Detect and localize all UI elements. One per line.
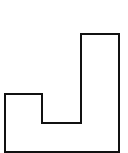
diagram-canvas: [0, 0, 128, 153]
rectilinear-shape-outline: [5, 34, 119, 152]
